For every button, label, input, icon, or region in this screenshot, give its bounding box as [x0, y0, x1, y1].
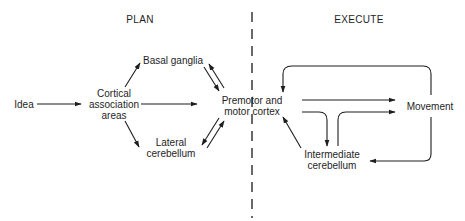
- node-label-line: areas: [101, 110, 126, 121]
- node-label-line: Cortical: [97, 88, 131, 99]
- arrow-lateral-cerebellum-to-premotor: [207, 121, 224, 148]
- node-label-line: cerebellum: [308, 160, 357, 171]
- arrow-premotor-to-basal-ganglia: [209, 64, 224, 88]
- node-label-line: Premotor and: [222, 95, 283, 106]
- arrow-premotor-to-intermediate-cerebellum: [302, 112, 327, 146]
- arrow-intermediate-cerebellum-to-premotor: [283, 117, 301, 148]
- node-cortical-association-areas: Cortical association areas: [89, 88, 139, 121]
- node-idea: Idea: [14, 99, 34, 110]
- arrow-intermediate-cerebellum-to-movement: [338, 112, 395, 146]
- execute-heading: EXECUTE: [334, 14, 383, 25]
- node-label-line: cerebellum: [147, 148, 196, 159]
- node-label-line: motor cortex: [224, 106, 280, 117]
- motor-planning-diagram: PLAN EXECUTE Idea Cortical association a…: [0, 0, 465, 221]
- arrow-movement-feedback-to-premotor: [283, 66, 431, 95]
- node-movement: Movement: [407, 101, 454, 112]
- node-label-line: association: [89, 99, 139, 110]
- node-intermediate-cerebellum: Intermediate cerebellum: [304, 149, 360, 171]
- node-lateral-cerebellum: Lateral cerebellum: [147, 137, 196, 159]
- node-basal-ganglia: Basal ganglia: [143, 55, 203, 66]
- arrow-basal-ganglia-to-premotor: [204, 67, 219, 91]
- plan-heading: PLAN: [126, 14, 153, 25]
- arrow-movement-feedback-to-intermediate-cerebellum: [370, 117, 431, 161]
- node-label-line: Intermediate: [304, 149, 360, 160]
- node-premotor-motor-cortex: Premotor and motor cortex: [222, 95, 283, 117]
- arrow-cortical-to-basal-ganglia: [125, 63, 140, 87]
- arrow-cortical-to-lateral-cerebellum: [125, 121, 139, 147]
- arrow-premotor-to-lateral-cerebellum: [202, 118, 219, 145]
- node-label-line: Lateral: [156, 137, 187, 148]
